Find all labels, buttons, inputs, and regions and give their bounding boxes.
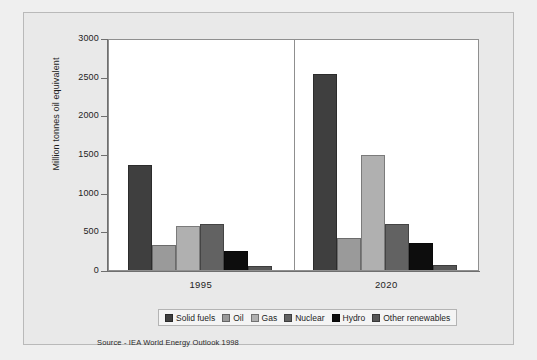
bar-1995-solid-fuels — [128, 165, 152, 270]
x-axis-label-2020: 2020 — [326, 279, 446, 290]
bar-1995-gas — [176, 226, 200, 270]
source-note: Source - IEA World Energy Outlook 1998 — [97, 338, 239, 347]
legend-label: Gas — [262, 313, 278, 323]
bar-group-1995 — [109, 40, 294, 270]
bar-2020-oil — [337, 238, 361, 270]
y-tick-label-3000: 3000 — [54, 33, 99, 43]
bar-2020-nuclear — [385, 224, 409, 270]
figure: Million tonnes oil equivalent 0500100015… — [0, 0, 537, 360]
legend-swatch-icon — [251, 314, 259, 322]
legend-swatch-icon — [372, 314, 380, 322]
bar-2020-solid-fuels — [313, 74, 337, 270]
legend: Solid fuelsOilGasNuclearHydroOther renew… — [158, 309, 457, 326]
chart-frame: Million tonnes oil equivalent 0500100015… — [23, 12, 514, 345]
legend-label: Solid fuels — [176, 313, 215, 323]
legend-label: Oil — [233, 313, 243, 323]
y-tick-2500 — [101, 78, 107, 79]
legend-swatch-icon — [284, 314, 292, 322]
bar-group-2020 — [294, 40, 479, 270]
y-tick-1500 — [101, 155, 107, 156]
y-tick-1000 — [101, 194, 107, 195]
legend-item-nuclear[interactable]: Nuclear — [284, 313, 324, 323]
y-tick-label-2000: 2000 — [54, 110, 99, 120]
legend-item-solid-fuels[interactable]: Solid fuels — [165, 313, 215, 323]
bar-2020-other-renewables — [433, 265, 457, 270]
legend-label: Other renewables — [383, 313, 450, 323]
y-tick-label-0: 0 — [54, 265, 99, 275]
legend-swatch-icon — [332, 314, 340, 322]
y-tick-0 — [101, 271, 107, 272]
y-tick-label-1000: 1000 — [54, 188, 99, 198]
bar-2020-hydro — [409, 243, 433, 270]
bar-2020-gas — [361, 155, 385, 270]
bar-1995-hydro — [224, 251, 248, 270]
x-axis-label-1995: 1995 — [141, 279, 261, 290]
bar-1995-oil — [152, 245, 176, 270]
x-axis-line — [107, 271, 480, 272]
legend-label: Nuclear — [295, 313, 324, 323]
legend-label: Hydro — [343, 313, 366, 323]
plot-area — [108, 39, 479, 271]
y-tick-500 — [101, 232, 107, 233]
legend-swatch-icon — [222, 314, 230, 322]
legend-swatch-icon — [165, 314, 173, 322]
legend-item-other-renewables[interactable]: Other renewables — [372, 313, 450, 323]
y-tick-2000 — [101, 116, 107, 117]
y-tick-label-500: 500 — [54, 226, 99, 236]
y-tick-label-2500: 2500 — [54, 72, 99, 82]
legend-item-hydro[interactable]: Hydro — [332, 313, 366, 323]
bar-1995-other-renewables — [248, 266, 272, 270]
legend-item-oil[interactable]: Oil — [222, 313, 243, 323]
legend-item-gas[interactable]: Gas — [251, 313, 278, 323]
y-tick-label-1500: 1500 — [54, 149, 99, 159]
y-tick-3000 — [101, 39, 107, 40]
bar-1995-nuclear — [200, 224, 224, 270]
